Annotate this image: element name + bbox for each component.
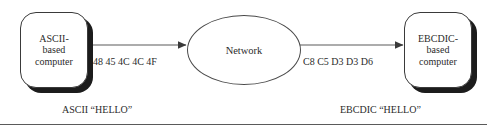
node-network-label: Network (226, 45, 263, 56)
node-network[interactable]: Network (187, 15, 301, 85)
footer-rule (0, 124, 487, 125)
caption-ascii-hello: ASCII “HELLO” (62, 104, 132, 115)
caption-ebcdic-hello: EBCDIC “HELLO” (340, 104, 421, 115)
edge-label-ascii-hex: 48 45 4C 4C 4F (93, 56, 157, 67)
edge-label-ebcdic-hex: C8 C5 D3 D3 D6 (303, 56, 373, 67)
node-ascii-computer[interactable]: ASCII-basedcomputer (20, 12, 88, 88)
node-ascii-computer-label: ASCII-basedcomputer (31, 33, 77, 68)
diagram-canvas: ASCII-basedcomputer Network EBCDIC-based… (0, 0, 487, 133)
node-ebcdic-computer-label: EBCDIC-basedcomputer (414, 33, 462, 68)
node-ebcdic-computer[interactable]: EBCDIC-basedcomputer (404, 12, 472, 88)
